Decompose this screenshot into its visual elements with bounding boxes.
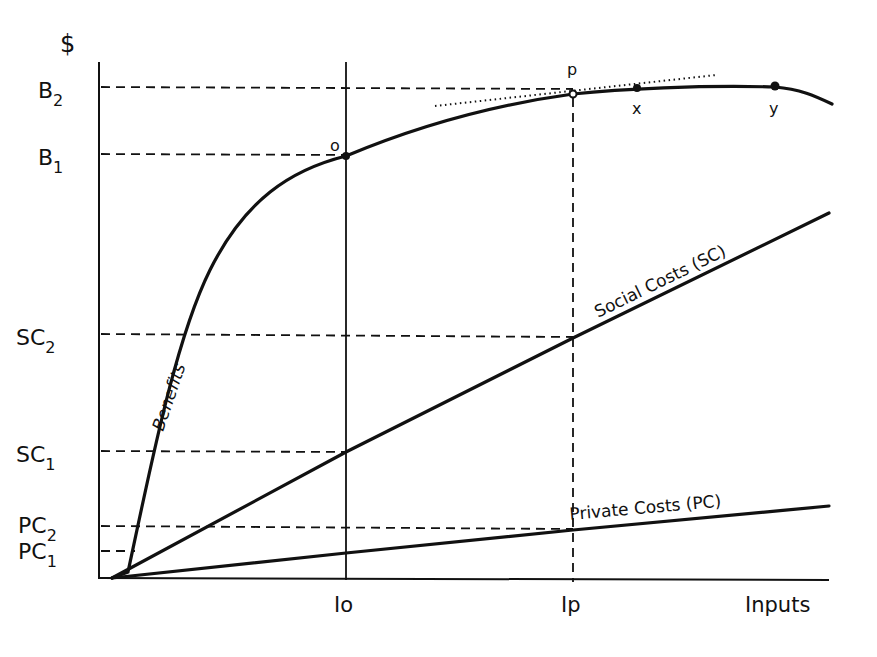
point-p-label: p xyxy=(567,60,577,79)
tick-b2: B2 xyxy=(38,78,63,110)
x-axis-label: Inputs xyxy=(745,593,810,617)
point-y-label: y xyxy=(769,99,778,118)
social-costs-line xyxy=(112,213,829,578)
benefit-cost-chart: $ B2 B1 SC2 SC1 PC2 PC1 Io Ip Inputs Ben… xyxy=(0,0,877,657)
tick-io: Io xyxy=(334,593,353,617)
guide-b1 xyxy=(101,154,346,155)
tick-ip: Ip xyxy=(561,593,581,617)
tick-b1: B1 xyxy=(38,145,63,177)
guide-sc1 xyxy=(101,451,346,452)
guide-b2 xyxy=(101,87,573,89)
point-x-marker xyxy=(633,84,641,92)
guide-pc2 xyxy=(101,526,573,529)
point-p-marker xyxy=(570,91,577,98)
tick-sc2: SC2 xyxy=(16,325,56,357)
y-axis-label: $ xyxy=(60,30,75,58)
benefits-label: Benefits xyxy=(148,361,190,434)
point-x-label: x xyxy=(632,99,641,118)
guide-sc2 xyxy=(101,334,573,337)
point-o-marker xyxy=(342,152,350,160)
tick-sc1: SC1 xyxy=(16,442,56,474)
private-costs-line xyxy=(112,506,829,578)
point-y-marker xyxy=(771,82,780,91)
x-axis xyxy=(99,578,829,580)
social-costs-label: Social Costs (SC) xyxy=(591,241,729,322)
point-o-label: o xyxy=(330,136,340,155)
benefits-curve xyxy=(112,86,832,578)
